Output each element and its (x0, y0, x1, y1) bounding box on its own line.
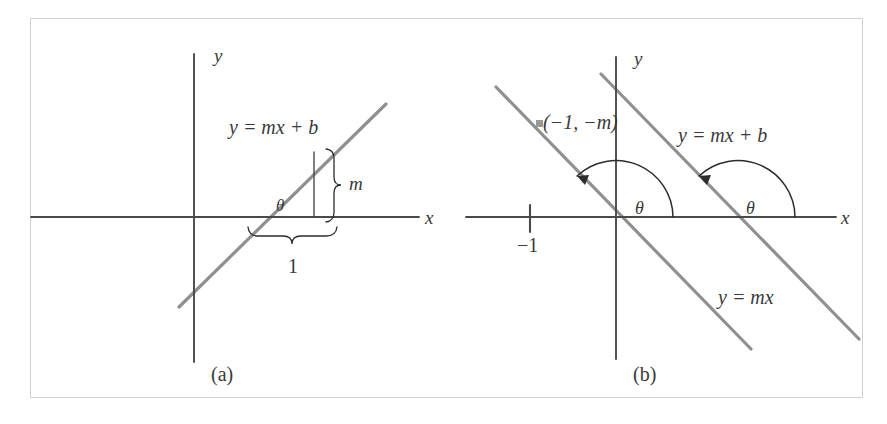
panel-b-graphic (441, 19, 864, 399)
point-marker-minus-one-minus-m (536, 120, 543, 127)
panel-a-line-equation-label: y = mx + b (229, 117, 318, 137)
panel-b-lower-line-equation-label: y = mx (718, 287, 774, 307)
panel-a: y x y = mx + b θ m 1 (a) (31, 19, 451, 399)
panel-a-y-axis-label: y (214, 46, 222, 65)
figure-frame: y x y = mx + b θ m 1 (a) (30, 18, 863, 398)
angle-arc-left (577, 161, 673, 217)
panel-b-point-label: (−1, −m) (543, 112, 618, 132)
panel-b-upper-line-equation-label: y = mx + b (678, 125, 767, 145)
figure-root: y x y = mx + b θ m 1 (a) (0, 0, 887, 424)
panel-b-angle-theta-left-label: θ (635, 199, 644, 217)
panel-b-y-axis-label: y (634, 49, 642, 68)
panel-a-rise-label-m: m (349, 174, 363, 193)
panel-b-x-axis-label: x (841, 208, 849, 227)
panel-a-x-axis-label: x (425, 208, 433, 227)
panel-a-angle-theta-label: θ (276, 197, 284, 214)
panel-a-caption: (a) (211, 364, 233, 384)
panel-b-angle-theta-right-label: θ (746, 199, 755, 217)
panel-b-caption: (b) (633, 364, 656, 384)
panel-a-run-label-1: 1 (288, 256, 298, 276)
panel-a-graphic (31, 19, 451, 399)
brace-run-1 (248, 227, 337, 244)
panel-b: y x (−1, −m) y = mx + b y = mx θ θ −1 (b… (441, 19, 864, 399)
panel-b-tick-label-minus-one: −1 (517, 235, 538, 255)
